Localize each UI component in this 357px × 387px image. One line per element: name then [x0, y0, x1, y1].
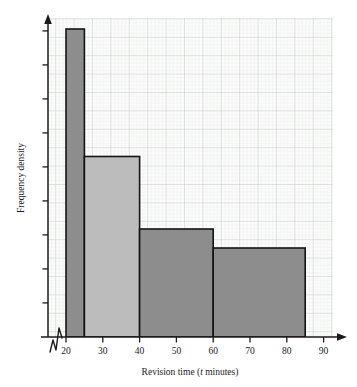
x-tick-labels: 20 30 40 50 60 70 80 90 [61, 346, 328, 356]
x-tick-label: 70 [245, 346, 255, 356]
y-axis-ticks [43, 31, 49, 303]
histogram-bar [213, 248, 305, 337]
x-tick-label: 50 [172, 346, 182, 356]
histogram-bar [84, 157, 139, 338]
x-tick-label: 40 [135, 346, 145, 356]
x-tick-label: 60 [208, 346, 218, 356]
x-axis-title-before: Revision time ( [142, 367, 201, 378]
x-axis-title: Revision time (t minutes) [142, 367, 239, 378]
x-tick-label: 80 [282, 346, 292, 356]
x-axis-arrowhead [337, 333, 347, 341]
histogram-bar [66, 29, 84, 337]
histogram-figure: 20 30 40 50 60 70 80 90 Revision time (t… [0, 0, 357, 387]
x-tick-label: 90 [319, 346, 329, 356]
histogram-bar [140, 229, 214, 337]
x-axis-title-after: minutes) [203, 367, 239, 378]
histogram-canvas: 20 30 40 50 60 70 80 90 Revision time (t… [0, 0, 357, 387]
y-axis-title: Frequency density [16, 143, 26, 213]
x-axis-ticks [66, 337, 324, 343]
x-tick-label: 30 [98, 346, 108, 356]
x-tick-label: 20 [61, 346, 71, 356]
